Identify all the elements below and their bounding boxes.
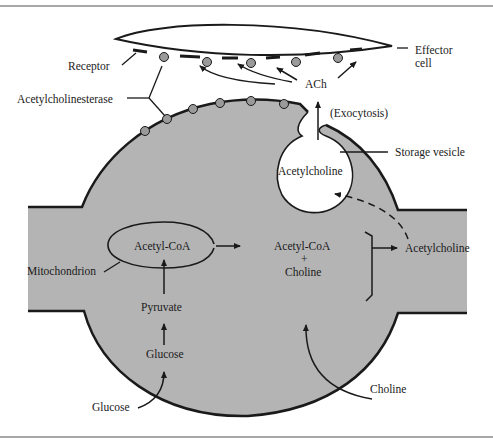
label-choline-outside: Choline [370,383,406,395]
label-glucose-inside: Glucose [146,348,184,360]
label-product-acetylcholine: Acetylcholine [405,242,470,255]
label-effector-cell-1: Effector [415,44,453,56]
label-exocytosis: (Exocytosis) [330,107,388,120]
label-plus: + [301,253,308,265]
label-effector-cell-2: cell [415,57,432,69]
effector-cell [116,25,392,68]
label-mitochondrion: Mitochondrion [27,265,96,277]
label-storage-vesicle: Storage vesicle [395,146,465,159]
label-cytosol-choline: Choline [285,266,321,278]
label-cytosol-acetyl-coa: Acetyl-CoA [274,240,331,253]
label-glucose-outside: Glucose [92,401,130,413]
label-vesicle-acetylcholine: Acetylcholine [278,165,343,178]
label-ach: ACh [305,78,327,90]
cholinergic-terminal-diagram: Receptor Acetylcholinesterase ACh Effect… [0,0,493,441]
terminal-bulb [82,100,398,417]
label-receptor: Receptor [68,60,110,73]
label-acetylcholinesterase: Acetylcholinesterase [17,93,113,106]
label-mito-acetyl-coa: Acetyl-CoA [134,240,191,253]
label-pyruvate: Pyruvate [141,301,182,314]
